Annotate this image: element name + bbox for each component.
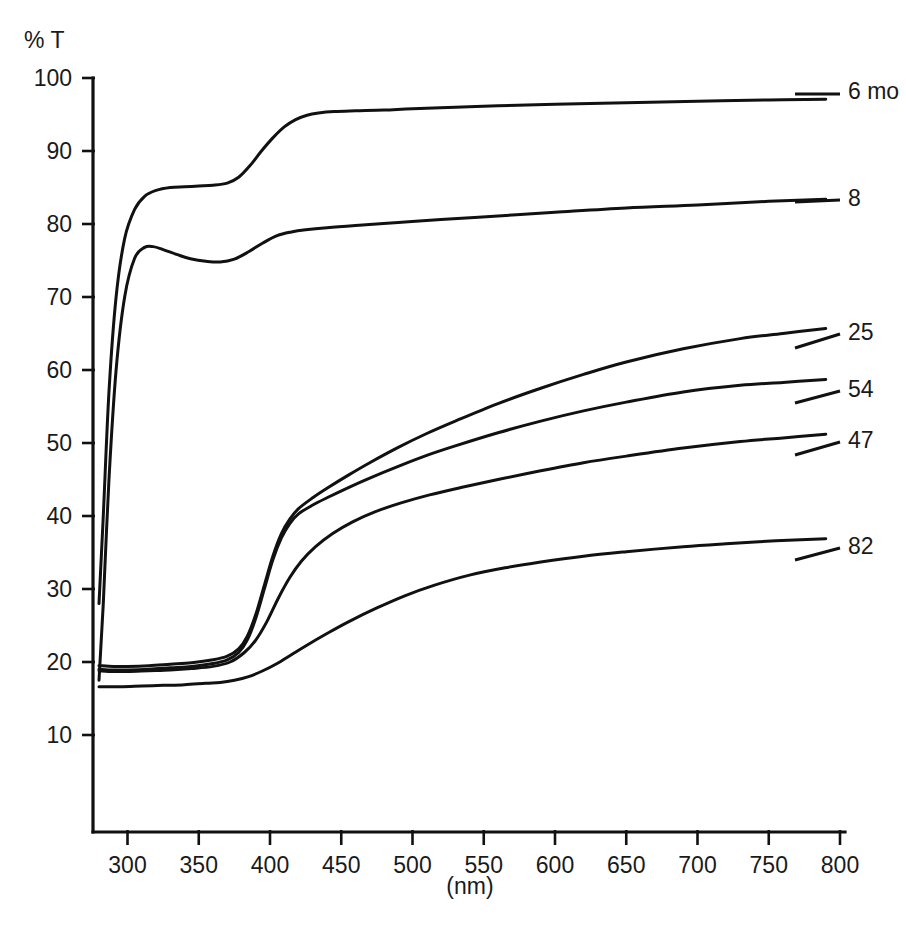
y-tick-label: 10 bbox=[46, 722, 72, 748]
y-tick-label: 90 bbox=[46, 138, 72, 164]
x-tick-label: 750 bbox=[750, 852, 788, 878]
series-label-6-mo: 6 mo bbox=[848, 78, 899, 104]
y-tick-label: 50 bbox=[46, 430, 72, 456]
chart-background bbox=[0, 0, 906, 929]
series-label-82: 82 bbox=[848, 533, 874, 559]
x-axis-title: (nm) bbox=[446, 873, 493, 899]
y-tick-label: 100 bbox=[34, 65, 72, 91]
x-tick-label: 350 bbox=[180, 852, 218, 878]
x-tick-label: 700 bbox=[678, 852, 716, 878]
x-tick-label: 650 bbox=[607, 852, 645, 878]
y-tick-label: 80 bbox=[46, 211, 72, 237]
chart-canvas: % T 102030405060708090100 30035040045050… bbox=[0, 0, 906, 929]
x-tick-label: 800 bbox=[821, 852, 859, 878]
transmittance-chart: % T 102030405060708090100 30035040045050… bbox=[0, 0, 906, 929]
x-tick-label: 300 bbox=[108, 852, 146, 878]
x-tick-label: 400 bbox=[251, 852, 289, 878]
y-tick-label: 70 bbox=[46, 284, 72, 310]
y-tick-label: 40 bbox=[46, 503, 72, 529]
y-tick-label: 20 bbox=[46, 649, 72, 675]
series-label-8: 8 bbox=[848, 185, 861, 211]
x-tick-label: 600 bbox=[536, 852, 574, 878]
series-leader-line bbox=[795, 200, 840, 202]
x-tick-label: 500 bbox=[393, 852, 431, 878]
series-label-54: 54 bbox=[848, 376, 874, 402]
y-axis-title: % T bbox=[24, 27, 64, 53]
series-label-25: 25 bbox=[848, 319, 874, 345]
y-tick-label: 60 bbox=[46, 357, 72, 383]
x-tick-label: 450 bbox=[322, 852, 360, 878]
series-label-47: 47 bbox=[848, 427, 874, 453]
y-tick-label: 30 bbox=[46, 576, 72, 602]
